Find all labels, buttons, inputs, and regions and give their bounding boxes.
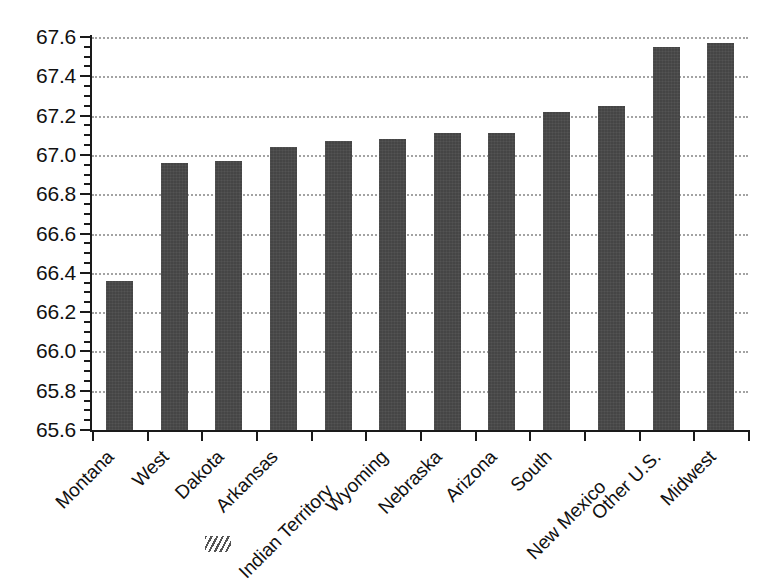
- y-tick-minor: [84, 400, 90, 402]
- y-tick-label: 66.8: [2, 183, 76, 204]
- y-tick-minor: [84, 134, 90, 136]
- x-tick: [475, 432, 477, 441]
- x-axis-label: Montana: [52, 446, 119, 513]
- bar: [379, 139, 406, 430]
- x-tick: [420, 432, 422, 441]
- gridline: [92, 155, 748, 157]
- y-tick-label: 67.0: [2, 144, 76, 165]
- y-tick-minor: [84, 262, 90, 264]
- y-tick-major: [80, 390, 90, 392]
- y-tick-label: 65.6: [2, 419, 76, 440]
- y-tick-label: 66.6: [2, 223, 76, 244]
- y-tick-minor: [84, 380, 90, 382]
- x-tick: [92, 432, 94, 441]
- x-axis-label: West: [128, 446, 174, 492]
- y-tick-label: 67.2: [2, 105, 76, 126]
- y-tick-minor: [84, 65, 90, 67]
- y-tick-minor: [84, 124, 90, 126]
- y-tick-major: [80, 154, 90, 156]
- y-tick-minor: [84, 360, 90, 362]
- x-axis-label: Midwest: [656, 446, 720, 510]
- gridline: [92, 76, 748, 78]
- y-tick-minor: [84, 419, 90, 421]
- x-axis-label: Arizona: [441, 446, 502, 507]
- y-tick-label: 65.8: [2, 380, 76, 401]
- y-tick-minor: [84, 223, 90, 225]
- y-tick-label: 67.4: [2, 65, 76, 86]
- y-tick-label: 66.0: [2, 340, 76, 361]
- x-tick: [693, 432, 695, 441]
- y-tick-minor: [84, 183, 90, 185]
- y-tick-minor: [84, 331, 90, 333]
- bar-chart: 67.667.467.267.066.866.666.466.266.065.8…: [0, 0, 780, 582]
- gridline: [92, 116, 748, 118]
- gridline: [92, 391, 748, 393]
- y-tick-minor: [84, 370, 90, 372]
- gridline: [92, 194, 748, 196]
- y-tick-minor: [84, 282, 90, 284]
- y-tick-major: [80, 311, 90, 313]
- y-tick-major: [80, 75, 90, 77]
- bar: [270, 147, 297, 430]
- bar: [325, 141, 352, 430]
- scan-artifact: [205, 536, 231, 552]
- x-tick: [584, 432, 586, 441]
- y-tick-minor: [84, 321, 90, 323]
- y-tick-minor: [84, 213, 90, 215]
- x-axis-label: South: [506, 446, 556, 496]
- y-tick-minor: [84, 203, 90, 205]
- y-tick-major: [80, 115, 90, 117]
- y-tick-major: [80, 429, 90, 431]
- x-tick: [365, 432, 367, 441]
- y-tick-minor: [84, 46, 90, 48]
- y-tick-major: [80, 272, 90, 274]
- bar: [434, 133, 461, 430]
- gridline: [92, 351, 748, 353]
- y-tick-major: [80, 36, 90, 38]
- x-tick: [256, 432, 258, 441]
- y-tick-minor: [84, 144, 90, 146]
- y-tick-major: [80, 233, 90, 235]
- bar: [161, 163, 188, 430]
- x-tick: [311, 432, 313, 441]
- x-tick: [201, 432, 203, 441]
- x-tick: [529, 432, 531, 441]
- y-tick-minor: [84, 409, 90, 411]
- gridline: [92, 37, 748, 39]
- bar: [598, 106, 625, 430]
- plot-area: [92, 37, 748, 430]
- gridline: [92, 312, 748, 314]
- y-tick-major: [80, 350, 90, 352]
- y-tick-minor: [84, 95, 90, 97]
- y-tick-label: 67.6: [2, 26, 76, 47]
- y-tick-minor: [84, 56, 90, 58]
- x-tick: [147, 432, 149, 441]
- x-tick: [748, 432, 750, 441]
- bar: [215, 161, 242, 430]
- bar: [707, 43, 734, 430]
- y-tick-minor: [84, 105, 90, 107]
- y-tick-minor: [84, 164, 90, 166]
- gridline: [92, 234, 748, 236]
- y-tick-minor: [84, 341, 90, 343]
- bar: [488, 133, 515, 430]
- x-tick: [639, 432, 641, 441]
- y-tick-label: 66.2: [2, 301, 76, 322]
- y-tick-minor: [84, 242, 90, 244]
- y-tick-minor: [84, 252, 90, 254]
- x-axis-label: Indian Territory: [235, 480, 338, 582]
- y-tick-minor: [84, 291, 90, 293]
- gridline: [92, 273, 748, 275]
- bar: [653, 47, 680, 430]
- y-tick-minor: [84, 174, 90, 176]
- y-tick-minor: [84, 85, 90, 87]
- y-tick-minor: [84, 301, 90, 303]
- bar: [543, 112, 570, 430]
- y-tick-major: [80, 193, 90, 195]
- y-tick-label: 66.4: [2, 262, 76, 283]
- bar: [106, 281, 133, 430]
